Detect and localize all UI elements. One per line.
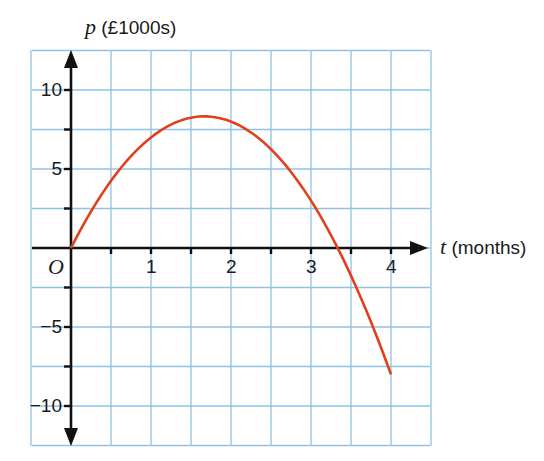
y-tick-label: −5 [40, 316, 62, 338]
axes [32, 50, 428, 446]
chart-canvas [0, 0, 544, 461]
origin-label: O [48, 254, 64, 280]
y-tick-label: 5 [51, 158, 62, 180]
y-tick-label: −10 [30, 395, 62, 417]
y-tick-label: 10 [41, 79, 62, 101]
x-tick-label: 2 [226, 256, 237, 278]
x-tick-label: 3 [306, 256, 317, 278]
x-tick-label: 1 [146, 256, 157, 278]
y-axis-label: p (£1000s) [85, 14, 176, 40]
x-axis-label: t (months) [440, 234, 526, 260]
x-tick-label: 4 [386, 256, 397, 278]
